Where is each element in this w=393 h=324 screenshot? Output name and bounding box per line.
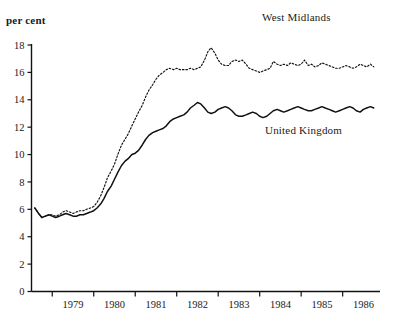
x-tick-label: 1982 [187, 299, 208, 310]
series-line-west-midlands [35, 48, 374, 218]
y-tick-label: 8 [19, 177, 24, 188]
figure-container: per cent West Midlands United Kingdom 02… [0, 0, 393, 324]
x-tick-label: 1986 [353, 299, 374, 310]
x-tick-label: 1980 [104, 299, 125, 310]
y-tick-label: 6 [19, 204, 24, 215]
x-tick-label: 1985 [311, 299, 332, 310]
series-line-united-kingdom [35, 103, 374, 218]
y-tick-label: 12 [14, 122, 25, 133]
y-tick-label: 16 [14, 67, 25, 78]
y-tick-label: 0 [19, 286, 24, 297]
y-tick-label: 2 [19, 259, 24, 270]
line-chart-plot: 024681012141618 197919801981198219831984… [0, 0, 393, 324]
y-tick-label: 18 [14, 40, 25, 51]
y-tick-label: 10 [14, 149, 25, 160]
x-tick-label: 1984 [270, 299, 292, 310]
x-tick-label: 1979 [62, 299, 83, 310]
data-series-group [35, 48, 374, 218]
x-tick-label: 1983 [228, 299, 249, 310]
y-axis: 024681012141618 [14, 40, 32, 298]
y-tick-label: 4 [19, 231, 25, 242]
x-tick-label: 1981 [145, 299, 166, 310]
y-tick-label: 14 [14, 94, 25, 105]
x-axis: 19791980198119821983198419851986 [32, 292, 381, 310]
